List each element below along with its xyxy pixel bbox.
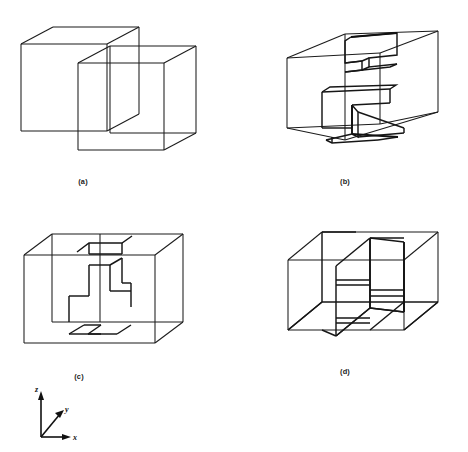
panel-b-caption: (b)	[340, 177, 350, 186]
y-axis-label: y	[64, 405, 69, 414]
panel-c-caption: (c)	[74, 372, 84, 381]
figure-background	[0, 0, 468, 452]
figure-root: (a)	[0, 0, 468, 452]
wireframe-figure-canvas: (a)	[0, 0, 468, 452]
x-axis-label: x	[72, 433, 77, 442]
panel-d-caption: (d)	[340, 367, 350, 376]
panel-a-caption: (a)	[78, 177, 88, 186]
